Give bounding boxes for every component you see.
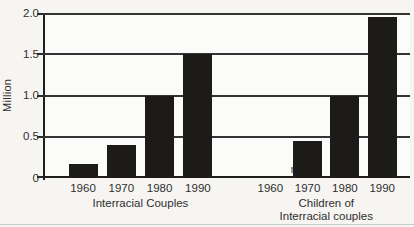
- y-tick-label-1.5: 1.5: [9, 48, 39, 61]
- x-label-group1-1990: 1990: [177, 182, 219, 194]
- x-label-group2-1990: 1990: [361, 182, 403, 194]
- plot-area: n.a.: [43, 13, 410, 178]
- bar-chart-figure: Million n.a. 2.01.51.00.5019601970198019…: [0, 0, 414, 227]
- y-tick-label-0.5: 0.5: [9, 130, 39, 143]
- x-label-group1-1960: 1960: [62, 182, 104, 194]
- bar-group2-1970: [293, 141, 322, 178]
- scan-artifact-line: [0, 224, 414, 225]
- bar-group2-1990: [368, 17, 397, 178]
- gridline-y-2.0: [43, 13, 410, 15]
- bar-group1-1970: [107, 145, 136, 178]
- group-label-line: Children of: [251, 197, 401, 210]
- bar-group1-1960: [69, 164, 98, 178]
- x-label-group2-1960: 1960: [249, 182, 291, 194]
- y-tick-label-0: 0: [9, 172, 39, 185]
- y-tick-label-2.0: 2.0: [9, 7, 39, 20]
- bar-group1-1990: [183, 54, 212, 178]
- y-tick-label-1.0: 1.0: [9, 89, 39, 102]
- gridline-y-1.5: [43, 53, 410, 55]
- x-label-group2-1980: 1980: [324, 182, 366, 194]
- group-label-line: Interracial couples: [251, 210, 401, 223]
- x-label-group1-1980: 1980: [139, 182, 181, 194]
- group-label-1: Interracial Couples: [65, 197, 215, 210]
- x-label-group1-1970: 1970: [100, 182, 142, 194]
- group-label-line: Interracial Couples: [65, 197, 215, 210]
- bar-group1-1980: [145, 96, 174, 179]
- group-label-2: Children ofInterracial couples: [251, 197, 401, 223]
- y-axis-line: [43, 13, 45, 180]
- bar-group2-1980: [330, 96, 359, 179]
- x-label-group2-1970: 1970: [287, 182, 329, 194]
